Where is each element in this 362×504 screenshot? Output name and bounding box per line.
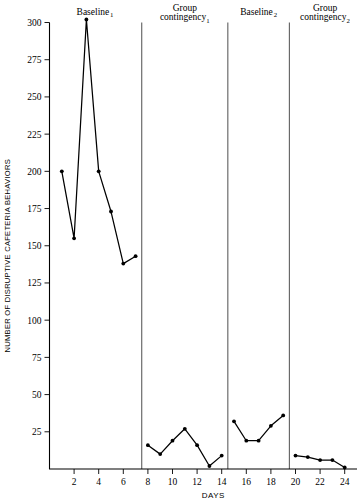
data-point: [269, 424, 273, 428]
data-point: [85, 18, 89, 22]
x-tick-label: 10: [168, 477, 178, 487]
phase-label-2-line2: contingency1: [160, 12, 210, 24]
y-tick-label: 25: [32, 427, 42, 437]
series-line-2: [148, 429, 222, 466]
y-tick-label: 125: [27, 278, 42, 288]
data-point: [220, 454, 224, 458]
x-tick-label: 24: [340, 477, 350, 487]
data-point: [146, 443, 150, 447]
x-tick-label: 4: [96, 477, 101, 487]
data-point: [97, 169, 101, 173]
data-point: [306, 455, 310, 459]
y-tick-label: 175: [27, 204, 42, 214]
plot-area: 2550751001251501752002252502753002468101…: [3, 3, 357, 501]
data-point: [60, 169, 64, 173]
data-point: [195, 443, 199, 447]
chart-figure: 2550751001251501752002252502753002468101…: [0, 0, 362, 504]
data-point: [158, 452, 162, 456]
data-point: [232, 419, 236, 423]
series-line-1: [62, 20, 136, 264]
data-point: [331, 458, 335, 462]
data-point: [208, 464, 212, 468]
x-tick-label: 20: [291, 477, 301, 487]
phase-label-2: Group: [173, 3, 198, 13]
phase-label-3: Baseline2: [240, 7, 278, 19]
x-tick-label: 16: [242, 477, 252, 487]
data-point: [318, 458, 322, 462]
x-tick-label: 12: [192, 477, 202, 487]
data-point: [72, 236, 76, 240]
x-axis-title: DAYS: [202, 491, 225, 500]
phase-label-4-line2: contingency2: [300, 12, 350, 24]
x-tick-label: 6: [121, 477, 126, 487]
line-chart-svg: 2550751001251501752002252502753002468101…: [0, 0, 362, 504]
data-point: [257, 439, 261, 443]
x-tick-label: 2: [72, 477, 77, 487]
data-point: [281, 414, 285, 418]
data-point: [121, 262, 125, 266]
y-tick-label: 100: [27, 316, 42, 326]
x-tick-label: 22: [315, 477, 325, 487]
data-point: [244, 439, 248, 443]
x-tick-label: 14: [217, 477, 227, 487]
data-point: [294, 454, 298, 458]
y-tick-label: 275: [27, 55, 42, 65]
y-tick-label: 150: [27, 241, 42, 251]
phase-label-1: Baseline1: [77, 7, 114, 19]
y-tick-label: 300: [27, 18, 42, 28]
x-tick-label: 8: [146, 477, 151, 487]
y-axis-title: NUMBER OF DISRUPTIVE CAFETERIA BEHAVIORS: [3, 159, 12, 352]
data-point: [343, 466, 347, 470]
y-tick-label: 250: [27, 92, 42, 102]
y-tick-label: 225: [27, 130, 42, 140]
phase-label-4: Group: [313, 3, 338, 13]
series-line-3: [234, 415, 283, 440]
y-tick-label: 75: [32, 353, 42, 363]
y-tick-label: 50: [32, 390, 42, 400]
data-point: [109, 210, 113, 214]
data-point: [183, 427, 187, 431]
data-point: [171, 439, 175, 443]
y-tick-label: 200: [27, 167, 42, 177]
x-tick-label: 18: [266, 477, 276, 487]
data-point: [134, 254, 138, 258]
chart-axes: [50, 23, 358, 470]
